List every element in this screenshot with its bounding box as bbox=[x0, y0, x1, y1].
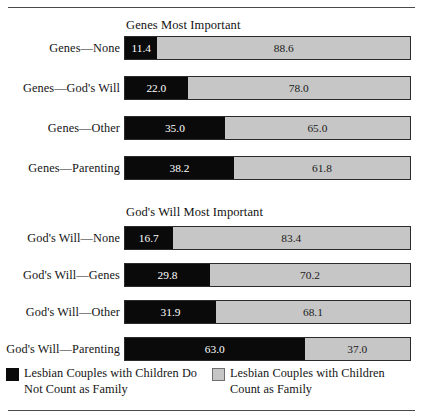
stacked-bar: 35.0 65.0 bbox=[124, 116, 411, 140]
chart-row: God's Will—None 16.7 83.4 bbox=[0, 226, 423, 250]
group-title-gods-will-most-important: God's Will Most Important bbox=[126, 205, 263, 219]
bar-segment-dark: 29.8 bbox=[125, 264, 210, 286]
stacked-bar: 29.8 70.2 bbox=[124, 263, 411, 287]
chart-row: God's Will—Genes 29.8 70.2 bbox=[0, 263, 423, 287]
bar-segment-dark: 35.0 bbox=[125, 117, 225, 139]
stacked-bar-chart-figure: Genes Most Important Genes—None 11.4 88.… bbox=[0, 0, 423, 419]
stacked-bar: 22.0 78.0 bbox=[124, 76, 411, 100]
bar-segment-dark: 16.7 bbox=[125, 227, 173, 249]
legend-label: Lesbian Couples with Children Do Not Cou… bbox=[24, 366, 206, 397]
legend-label: Lesbian Couples with Children Count as F… bbox=[230, 366, 418, 397]
stacked-bar: 38.2 61.8 bbox=[124, 156, 411, 180]
light-swatch-icon bbox=[212, 368, 225, 381]
bar-segment-dark: 11.4 bbox=[125, 37, 157, 59]
chart-row: Genes—None 11.4 88.6 bbox=[0, 36, 423, 60]
bar-segment-dark: 38.2 bbox=[125, 157, 234, 179]
chart-row: God's Will—Parenting 63.0 37.0 bbox=[0, 337, 423, 361]
bar-segment-dark: 22.0 bbox=[125, 77, 188, 99]
stacked-bar: 11.4 88.6 bbox=[124, 36, 411, 60]
chart-legend: Lesbian Couples with Children Do Not Cou… bbox=[0, 366, 423, 406]
row-label: Genes—Parenting bbox=[0, 156, 120, 180]
bar-segment-dark: 31.9 bbox=[125, 301, 216, 323]
stacked-bar: 31.9 68.1 bbox=[124, 300, 411, 324]
bar-segment-light: 70.2 bbox=[210, 264, 410, 286]
bar-segment-light: 88.6 bbox=[157, 37, 410, 59]
bar-segment-light: 68.1 bbox=[216, 301, 410, 323]
row-label: God's Will—Parenting bbox=[0, 337, 120, 361]
legend-entry-do-not-count: Lesbian Couples with Children Do Not Cou… bbox=[6, 366, 206, 397]
dark-swatch-icon bbox=[6, 368, 19, 381]
chart-row: Genes—God's Will 22.0 78.0 bbox=[0, 76, 423, 100]
row-label: Genes—God's Will bbox=[0, 76, 120, 100]
row-label: Genes—None bbox=[0, 36, 120, 60]
row-label: God's Will—Other bbox=[0, 300, 120, 324]
stacked-bar: 16.7 83.4 bbox=[124, 226, 411, 250]
row-label: God's Will—None bbox=[0, 226, 120, 250]
row-label: Genes—Other bbox=[0, 116, 120, 140]
chart-row: Genes—Other 35.0 65.0 bbox=[0, 116, 423, 140]
bar-segment-light: 83.4 bbox=[173, 227, 410, 249]
bar-segment-light: 65.0 bbox=[225, 117, 410, 139]
bottom-divider-rule bbox=[8, 410, 415, 411]
stacked-bar: 63.0 37.0 bbox=[124, 337, 411, 361]
bar-segment-light: 61.8 bbox=[234, 157, 410, 179]
top-divider-rule bbox=[8, 7, 415, 8]
legend-entry-count: Lesbian Couples with Children Count as F… bbox=[212, 366, 418, 397]
group-title-genes-most-important: Genes Most Important bbox=[126, 18, 240, 32]
bar-segment-light: 37.0 bbox=[305, 338, 410, 360]
chart-row: Genes—Parenting 38.2 61.8 bbox=[0, 156, 423, 180]
row-label: God's Will—Genes bbox=[0, 263, 120, 287]
bar-segment-dark: 63.0 bbox=[125, 338, 305, 360]
chart-row: God's Will—Other 31.9 68.1 bbox=[0, 300, 423, 324]
bar-segment-light: 78.0 bbox=[188, 77, 410, 99]
